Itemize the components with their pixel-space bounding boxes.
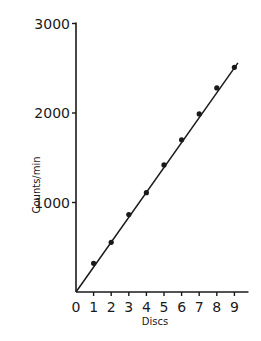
chart: 1000200030000123456789 Counts/min Discs [0,0,261,341]
data-point [91,261,96,266]
data-point [179,137,184,142]
data-point [161,162,166,167]
x-tick-label: 6 [177,299,186,315]
data-point [214,85,219,90]
y-tick-label: 3000 [34,16,70,32]
fit-line [76,63,238,292]
data-point [144,190,149,195]
x-tick-label: 2 [107,299,116,315]
x-tick-label: 3 [124,299,133,315]
x-axis-label: Discs [142,316,168,327]
x-tick-label: 4 [142,299,151,315]
x-tick-label: 1 [89,299,98,315]
x-tick-label: 8 [212,299,221,315]
data-point [197,111,202,116]
x-tick-label: 9 [230,299,239,315]
regression-line [76,63,238,292]
data-point [109,240,114,245]
axes [76,23,248,293]
data-point [126,212,131,217]
x-tick-label: 0 [72,299,81,315]
data-point [232,65,237,70]
y-tick-label: 2000 [34,105,70,121]
y-axis-label: Counts/min [31,156,42,213]
x-tick-label: 7 [195,299,204,315]
ticks: 1000200030000123456789 [34,16,239,316]
x-tick-label: 5 [160,299,169,315]
